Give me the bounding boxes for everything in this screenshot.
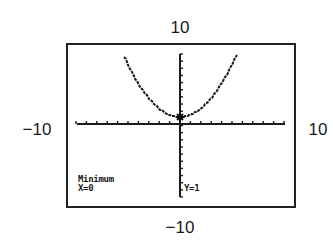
y-readout: Y=1 (184, 184, 199, 193)
calculator-screen: Minimum X=0 Y=1 (66, 43, 296, 208)
window-xmax-label: 10 (309, 120, 328, 140)
window-xmin-label: −10 (23, 120, 52, 140)
window-ymin-label: −10 (166, 218, 195, 238)
x-readout: X=0 (78, 184, 93, 193)
window-ymax-label: 10 (171, 18, 190, 38)
trace-cursor-icon (176, 113, 184, 121)
